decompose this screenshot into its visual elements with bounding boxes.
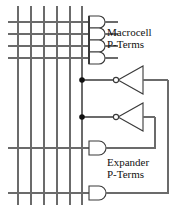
expander-p-terms-label: Expander P-Terms xyxy=(107,156,149,180)
product-term-line-group xyxy=(18,6,82,205)
logic-schematic xyxy=(0,0,181,210)
inverter-1-triangle xyxy=(118,66,143,94)
macrocell-and-gate-1 xyxy=(89,16,105,28)
macrocell-and-gate-2 xyxy=(89,28,105,40)
junction-dot-1 xyxy=(79,77,85,83)
macrocell-label-line-1: Macrocell xyxy=(107,26,152,38)
expander-and-gate-1 xyxy=(89,141,106,155)
macrocell-and-gate-3 xyxy=(89,40,105,52)
macrocell-input-line-group xyxy=(8,22,89,58)
inverter-1-bubble xyxy=(113,77,118,82)
expander-label-line-2: P-Terms xyxy=(107,168,149,180)
expander-and-gate-2 xyxy=(89,186,106,200)
inverter-2-triangle xyxy=(118,103,143,131)
macrocell-and-gate-group xyxy=(89,16,105,64)
macrocell-label-line-2: P-Terms xyxy=(107,38,152,50)
macrocell-p-terms-label: Macrocell P-Terms xyxy=(107,26,152,50)
diagram-canvas: Macrocell P-Terms Expander P-Terms xyxy=(0,0,181,210)
expander-label-line-1: Expander xyxy=(107,156,149,168)
macrocell-and-gate-4 xyxy=(89,52,105,64)
inverter-2-bubble xyxy=(113,114,118,119)
junction-dot-2 xyxy=(79,114,85,120)
expander-input-line-group xyxy=(8,148,89,193)
